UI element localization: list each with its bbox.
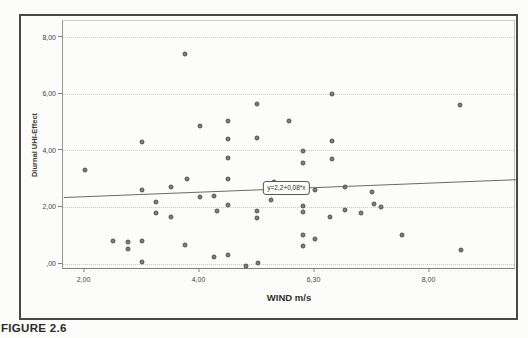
x-tick-mark (83, 269, 84, 272)
x-tick-label: 4,00 (182, 276, 216, 283)
plot-area (62, 20, 515, 269)
x-tick-label: 6,30 (297, 276, 331, 283)
y-tick-mark (58, 263, 62, 264)
regression-equation-label: y=2,2+0,08*x (263, 181, 309, 195)
x-tick-label: 2,00 (67, 276, 101, 283)
fit-line (63, 21, 516, 270)
y-tick-label: 8,00 (28, 33, 56, 40)
y-tick-mark (58, 93, 62, 94)
x-tick-label: 8,00 (412, 276, 446, 283)
x-axis-title: WIND m/s (267, 292, 311, 303)
y-tick-mark (58, 149, 62, 150)
x-tick-mark (198, 269, 199, 272)
y-tick-label: 6,00 (28, 90, 56, 97)
y-tick-label: 4,00 (28, 146, 56, 153)
x-tick-mark (428, 269, 429, 272)
y-tick-label: 2,00 (28, 203, 56, 210)
y-tick-mark (58, 36, 62, 37)
y-tick-mark (58, 206, 62, 207)
y-axis-title: Diurnal UHI-Effect (30, 113, 39, 177)
x-tick-mark (313, 269, 314, 272)
y-tick-label: ,00 (28, 260, 56, 267)
figure-caption: FIGURE 2.6 (1, 322, 67, 334)
